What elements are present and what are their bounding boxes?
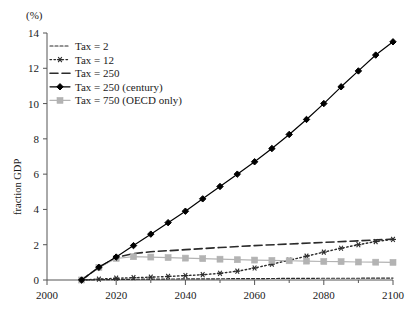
chart-container: (%) fraction GDP 02468101214200020202040… bbox=[0, 0, 406, 314]
legend-item-tax-250-century[interactable]: Tax = 250 (century) bbox=[50, 81, 163, 94]
marker-square bbox=[304, 258, 310, 264]
y-tick-label: 0 bbox=[34, 274, 40, 286]
marker-square bbox=[286, 258, 292, 264]
x-tick-label: 2040 bbox=[174, 289, 197, 301]
x-tick-label: 2080 bbox=[313, 289, 336, 301]
marker-square bbox=[182, 255, 188, 261]
marker-square bbox=[338, 259, 344, 265]
marker-star bbox=[200, 272, 206, 277]
legend-label: Tax = 250 bbox=[75, 67, 120, 79]
marker-square bbox=[131, 254, 137, 260]
line-chart-plot: 02468101214200020202040206020802100 Tax … bbox=[0, 0, 406, 314]
x-tick-label: 2020 bbox=[105, 289, 128, 301]
y-tick-label: 10 bbox=[28, 98, 40, 110]
legend-item-tax-2[interactable]: Tax = 2 bbox=[50, 40, 109, 52]
x-tick-label: 2100 bbox=[382, 289, 405, 301]
x-tick-label: 2000 bbox=[36, 289, 59, 301]
marker-diamond bbox=[148, 231, 154, 237]
y-tick-label: 12 bbox=[28, 62, 39, 74]
marker-star bbox=[355, 242, 361, 247]
marker-star bbox=[234, 269, 240, 274]
y-tick-label: 6 bbox=[34, 168, 40, 180]
marker-star bbox=[321, 250, 327, 255]
marker-square bbox=[252, 257, 258, 263]
marker-square bbox=[200, 256, 206, 262]
marker-square bbox=[269, 257, 275, 263]
y-tick-label: 14 bbox=[28, 27, 40, 39]
legend-item-tax-12[interactable]: Tax = 12 bbox=[50, 54, 114, 66]
series-layer bbox=[78, 39, 396, 284]
marker-star bbox=[182, 273, 188, 278]
marker-diamond bbox=[165, 219, 171, 225]
marker-square bbox=[165, 255, 171, 261]
marker-star bbox=[338, 246, 344, 251]
marker-diamond bbox=[57, 84, 63, 90]
marker-star bbox=[57, 57, 63, 62]
legend-label: Tax = 750 (OECD only) bbox=[75, 94, 182, 107]
legend-label: Tax = 12 bbox=[75, 54, 114, 66]
marker-square bbox=[57, 97, 63, 103]
marker-star bbox=[96, 277, 102, 282]
marker-diamond bbox=[130, 242, 136, 248]
marker-square bbox=[234, 257, 240, 263]
marker-square bbox=[373, 259, 379, 265]
marker-square bbox=[217, 256, 223, 262]
y-tick-label: 8 bbox=[34, 133, 40, 145]
marker-square bbox=[390, 259, 396, 265]
x-tick-label: 2060 bbox=[244, 289, 267, 301]
y-tick-label: 2 bbox=[34, 239, 40, 251]
marker-star bbox=[217, 271, 223, 276]
marker-star bbox=[165, 274, 171, 279]
series-line bbox=[82, 42, 393, 280]
legend-item-tax-750-oecd-only[interactable]: Tax = 750 (OECD only) bbox=[50, 94, 182, 107]
y-tick-label: 4 bbox=[34, 203, 40, 215]
marker-square bbox=[148, 254, 154, 260]
marker-square bbox=[321, 258, 327, 264]
marker-square bbox=[355, 259, 361, 265]
legend-layer: Tax = 2Tax = 12Tax = 250Tax = 250 (centu… bbox=[50, 40, 182, 107]
legend-label: Tax = 250 (century) bbox=[75, 81, 163, 94]
marker-star bbox=[252, 265, 258, 270]
legend-label: Tax = 2 bbox=[75, 40, 109, 52]
legend-item-tax-250[interactable]: Tax = 250 bbox=[50, 67, 120, 79]
